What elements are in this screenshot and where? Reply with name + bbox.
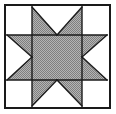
- corner-bottom-left: [7, 80, 32, 106]
- corner-top-right: [82, 7, 107, 35]
- quilt-block-svg: [0, 0, 116, 114]
- patch-layer: [7, 7, 107, 106]
- quilt-block-figure: Eight-Pointed Star Quilt Block: [0, 0, 116, 114]
- center-square: [32, 35, 82, 80]
- corner-bottom-right: [82, 80, 107, 106]
- corner-top-left: [7, 7, 32, 35]
